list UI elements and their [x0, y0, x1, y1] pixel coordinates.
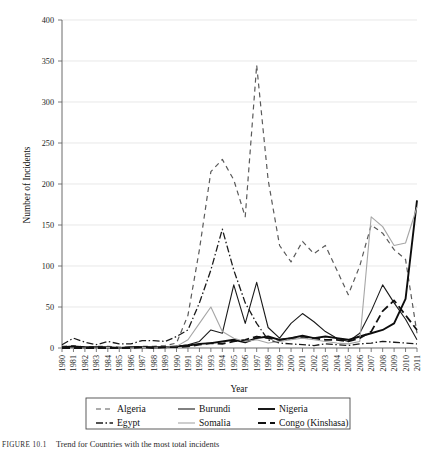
legend-label-burundi: Burundi: [199, 403, 231, 414]
x-tick-label: 1980: [58, 355, 67, 371]
x-tick-label: 1989: [161, 355, 170, 371]
figure-caption-tag: FIGURE 10.1: [2, 441, 47, 449]
y-tick-label: 100: [42, 262, 54, 271]
legend-layer: AlgeriaBurundiNigeriaEgyptSomaliaCongo (…: [96, 403, 349, 429]
x-tick-label: 1997: [253, 355, 262, 371]
x-tick-label: 2006: [356, 355, 365, 371]
x-tick-label: 2005: [344, 355, 353, 371]
figure-container: 050100150200250300350400 198019811982198…: [0, 0, 436, 451]
x-tick-label: 2009: [390, 355, 399, 371]
x-tick-label: 1985: [115, 355, 124, 371]
figure-caption-text: Trend for Countries with the most total …: [56, 440, 219, 449]
x-tick-label: 1998: [264, 355, 273, 371]
y-tick-label: 200: [42, 180, 54, 189]
series-line-egypt: [62, 229, 417, 345]
y-tick-label: 400: [42, 16, 54, 25]
x-tick-label: 2008: [379, 355, 388, 371]
x-tick-label: 2011: [413, 355, 422, 371]
legend-label-nigeria: Nigeria: [279, 403, 309, 414]
x-tick-label: 1987: [138, 355, 147, 371]
series-line-somalia: [62, 207, 417, 348]
x-tick-label: 2000: [287, 355, 296, 371]
x-tick-label: 1984: [104, 355, 113, 371]
x-tick-label: 1990: [173, 355, 182, 371]
x-tick-label: 1991: [184, 355, 193, 371]
series-layer: [62, 65, 417, 348]
y-tick-label: 250: [42, 139, 54, 148]
x-axis-title: Year: [230, 384, 248, 394]
x-tick-label: 1999: [276, 355, 285, 371]
legend-label-congo-kinshasa: Congo (Kinshasa): [279, 417, 349, 429]
x-tick-label: 1983: [92, 355, 101, 371]
y-tick-label: 50: [46, 303, 54, 312]
y-axis-title: Number of Incidents: [22, 146, 32, 223]
x-tick-label: 1995: [230, 355, 239, 371]
x-tick-label: 2010: [402, 355, 411, 371]
x-tick-label: 2007: [367, 355, 376, 371]
x-tick-label: 2004: [333, 355, 342, 371]
x-tick-label: 1996: [241, 355, 250, 371]
x-tick-label: 1993: [207, 355, 216, 371]
y-tick-label: 350: [42, 57, 54, 66]
legend-label-egypt: Egypt: [117, 417, 140, 428]
x-tick-label: 1992: [195, 355, 204, 371]
x-tick-label: 1994: [218, 355, 227, 371]
gridlines: [62, 20, 417, 307]
x-tick-label: 1988: [150, 355, 159, 371]
x-tick-label: 1981: [69, 355, 78, 371]
y-axis-ticks: 050100150200250300350400: [42, 16, 62, 353]
y-tick-label: 300: [42, 98, 54, 107]
y-tick-label: 0: [50, 344, 54, 353]
x-tick-label: 2002: [310, 355, 319, 371]
x-tick-label: 2003: [321, 355, 330, 371]
x-tick-label: 2001: [298, 355, 307, 371]
x-tick-label: 1986: [127, 355, 136, 371]
x-axis-ticks: 1980198119821983198419851986198719881989…: [58, 348, 422, 371]
chart-svg: 050100150200250300350400 198019811982198…: [0, 0, 436, 451]
legend-label-algeria: Algeria: [117, 403, 147, 414]
legend-label-somalia: Somalia: [199, 417, 231, 428]
x-tick-label: 1982: [81, 355, 90, 371]
y-tick-label: 150: [42, 221, 54, 230]
